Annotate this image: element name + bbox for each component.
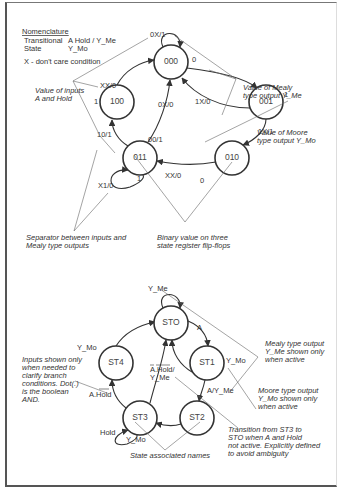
edge-010-011 xyxy=(157,161,216,164)
edge-011-100 xyxy=(112,120,128,146)
annotation-mealy: Value of Mealy type output Y_Me xyxy=(243,83,302,100)
edge-001-000 xyxy=(182,78,250,108)
state-st2: ST2 xyxy=(180,401,214,435)
annotation-separator: Separator between inputs and Mealy type … xyxy=(26,233,128,250)
state-011: 011 xyxy=(123,141,157,175)
moore-011: 1 xyxy=(137,174,141,183)
legend-title: Nomenclature xyxy=(22,27,69,36)
label-xx0-100: XX/0 xyxy=(100,81,116,90)
edge-st4-sto xyxy=(116,322,155,346)
label-sto-st1: A xyxy=(197,323,202,332)
svg-text:ST3: ST3 xyxy=(132,412,148,422)
svg-text:000: 000 xyxy=(164,56,178,66)
label-00-1: 00/1 xyxy=(148,135,163,144)
annotation-mealy-active: Mealy type output Y_Me shown only when a… xyxy=(265,339,326,364)
state-st1: ST1 xyxy=(190,346,224,380)
state-100: 100 xyxy=(100,85,134,119)
diagram2-annotations: Inputs shown only when needed to clarify… xyxy=(21,339,326,460)
label-0x1: 0X/1 xyxy=(150,30,165,39)
state-010: 010 xyxy=(215,141,249,175)
state-st4: ST4 xyxy=(99,346,133,380)
label-0x0: 0X/0 xyxy=(158,100,173,109)
label-st4-moore: Y_Mo xyxy=(77,343,97,352)
label-sto-self: Y_Me xyxy=(148,284,168,293)
label-st1-st2: A/Y_Me xyxy=(207,386,234,395)
svg-text:ST1: ST1 xyxy=(199,357,215,367)
svg-text:010: 010 xyxy=(225,152,239,162)
svg-text:100: 100 xyxy=(110,96,124,106)
label-xx0-010: XX/0 xyxy=(165,171,181,180)
moore-100: 1 xyxy=(94,97,98,106)
state-st3: ST3 xyxy=(123,401,157,435)
edge-100-000 xyxy=(117,60,154,85)
edge-st3-st4 xyxy=(112,380,126,408)
annotation-transition: Transition from ST3 to STO when A and Ho… xyxy=(228,425,322,458)
diagram1-states: 000 001 010 011 100 xyxy=(100,45,283,175)
annotation-inputs-shown: Inputs shown only when needed to clarify… xyxy=(21,355,84,404)
label-st3-sto-2: Y_Me xyxy=(150,373,170,382)
state-000: 000 xyxy=(154,45,188,79)
moore-010: 0 xyxy=(200,176,204,185)
label-st1-moore: Y_Mo xyxy=(226,356,246,365)
edge-011-000 xyxy=(148,80,170,142)
nomenclature-legend: Nomenclature Transitional A Hold / Y_Me … xyxy=(22,27,116,66)
label-1x0: 1X/0 xyxy=(195,97,210,106)
svg-text:011: 011 xyxy=(133,152,147,162)
label-x1-0: X1/0 xyxy=(98,181,113,190)
label-st3-st4: A.Hold xyxy=(89,390,112,399)
svg-text:ST2: ST2 xyxy=(189,412,205,422)
svg-text:STO: STO xyxy=(162,317,180,327)
edge-st1-st2 xyxy=(199,380,205,401)
legend-state-label: State xyxy=(24,44,42,53)
svg-text:ST4: ST4 xyxy=(108,357,124,367)
edge-st2-st3 xyxy=(156,423,181,426)
annotation-state-names: State associated names xyxy=(130,451,210,460)
label-st3-moore: Y_Mo xyxy=(126,435,146,444)
annotation-inputs: Value of inputs A and Hold xyxy=(34,86,86,103)
annotation-moore-active: Moore type output Y_Mo shown only when a… xyxy=(258,386,321,411)
state-diagrams: Nomenclature Transitional A Hold / Y_Me … xyxy=(0,0,340,496)
state-sto: STO xyxy=(154,306,188,340)
legend-state-value: Y_Mo xyxy=(68,44,88,53)
annotation-binary: Binary value on three state register fli… xyxy=(157,233,231,250)
edge-st1-sto xyxy=(172,340,192,372)
label-st3-hold: Hold xyxy=(100,428,115,437)
moore-000: 0 xyxy=(192,55,196,64)
annotation-moore: Value of Moore type output Y_Mo xyxy=(257,128,316,145)
legend-dont-care: X - don't care condition xyxy=(24,57,100,66)
